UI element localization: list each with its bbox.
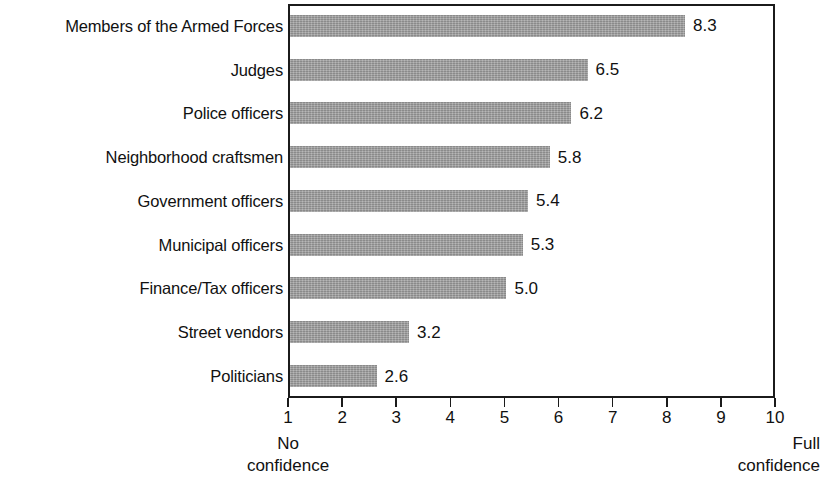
bar-with-value: 6.5 xyxy=(290,59,619,81)
bar xyxy=(290,59,588,81)
x-axis-tick-label: 3 xyxy=(391,408,400,428)
bar xyxy=(290,146,550,168)
x-axis-tick xyxy=(774,398,776,407)
bar-value-label: 6.5 xyxy=(596,61,620,78)
bar-row: Judges6.5 xyxy=(0,48,824,92)
bar-value-label: 3.2 xyxy=(417,324,441,341)
x-axis-tick xyxy=(395,398,397,407)
x-axis-tick xyxy=(612,398,614,407)
bar-value-label: 5.0 xyxy=(514,280,538,297)
axis-endpoint-low-line2: confidence xyxy=(247,455,329,477)
x-axis-tick xyxy=(558,398,560,407)
bar-with-value: 5.8 xyxy=(290,146,581,168)
category-label: Municipal officers xyxy=(159,235,283,254)
category-label: Finance/Tax officers xyxy=(140,279,283,298)
x-axis-tick-label: 9 xyxy=(716,408,725,428)
bar-with-value: 3.2 xyxy=(290,321,441,343)
bar-value-label: 2.6 xyxy=(385,368,409,385)
x-axis-tick xyxy=(720,398,722,407)
axis-endpoint-high-line1: Full xyxy=(738,433,820,455)
bar xyxy=(290,102,571,124)
bar xyxy=(290,190,528,212)
bar-row: Government officers5.4 xyxy=(0,179,824,223)
bar-with-value: 5.4 xyxy=(290,190,560,212)
category-label: Judges xyxy=(231,60,283,79)
x-axis-tick-label: 2 xyxy=(337,408,346,428)
category-label: Politicians xyxy=(210,367,283,386)
category-label: Street vendors xyxy=(178,323,283,342)
bar-row: Finance/Tax officers5.0 xyxy=(0,267,824,311)
bar-value-label: 6.2 xyxy=(579,105,603,122)
bar-row: Street vendors3.2 xyxy=(0,310,824,354)
bar-with-value: 2.6 xyxy=(290,365,408,387)
x-axis-tick xyxy=(287,398,289,407)
x-axis-tick xyxy=(504,398,506,407)
category-label: Police officers xyxy=(183,104,283,123)
axis-endpoint-low: No confidence xyxy=(247,433,329,477)
bar-row: Police officers6.2 xyxy=(0,92,824,136)
bar-value-label: 5.4 xyxy=(536,192,560,209)
bar-value-label: 5.8 xyxy=(558,149,582,166)
x-axis-tick-label: 6 xyxy=(554,408,563,428)
x-axis-tick xyxy=(450,398,452,407)
bar-value-label: 5.3 xyxy=(531,236,555,253)
axis-endpoint-high: Full confidence xyxy=(738,433,820,477)
x-axis-tick-label: 10 xyxy=(766,408,785,428)
x-axis-tick-label: 4 xyxy=(446,408,455,428)
bar-with-value: 8.3 xyxy=(290,15,717,37)
bar xyxy=(290,321,409,343)
bar-row: Municipal officers5.3 xyxy=(0,223,824,267)
x-axis-tick-label: 5 xyxy=(500,408,509,428)
bar-with-value: 5.3 xyxy=(290,234,554,256)
bar-chart: Members of the Armed Forces8.3Judges6.5P… xyxy=(0,0,824,489)
axis-endpoint-high-line2: confidence xyxy=(738,455,820,477)
bar-value-label: 8.3 xyxy=(693,17,717,34)
bar-row: Politicians2.6 xyxy=(0,354,824,398)
axis-endpoint-low-line1: No xyxy=(247,433,329,455)
x-axis-tick-label: 7 xyxy=(608,408,617,428)
category-label: Neighborhood craftsmen xyxy=(106,148,283,167)
x-axis-tick xyxy=(341,398,343,407)
x-axis-tick-label: 8 xyxy=(662,408,671,428)
bar xyxy=(290,234,523,256)
bar-with-value: 6.2 xyxy=(290,102,603,124)
category-label: Government officers xyxy=(138,191,283,210)
bar-row: Neighborhood craftsmen5.8 xyxy=(0,135,824,179)
x-axis-tick-label: 1 xyxy=(283,408,292,428)
bar xyxy=(290,365,377,387)
bar xyxy=(290,277,506,299)
x-axis-tick xyxy=(666,398,668,407)
category-label: Members of the Armed Forces xyxy=(65,16,283,35)
bar xyxy=(290,15,685,37)
bar-with-value: 5.0 xyxy=(290,277,538,299)
bar-row: Members of the Armed Forces8.3 xyxy=(0,4,824,48)
